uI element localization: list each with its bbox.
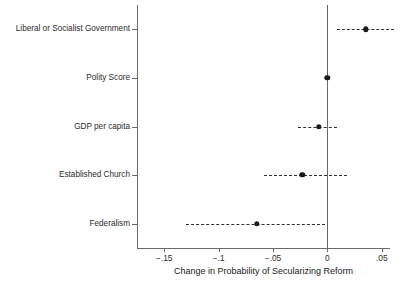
y-axis-label: GDP per capita [74,122,130,131]
x-tick [273,248,274,252]
y-tick [132,175,137,176]
x-tick-label: 0 [325,253,330,263]
y-axis-label: Polity Score [86,73,130,82]
x-axis-line [137,248,390,249]
coefficient-plot: Liberal or Socialist GovernmentPolity Sc… [0,0,410,293]
x-tick-label: −.1 [213,253,225,263]
estimate-point [316,124,321,129]
x-tick-label: −.15 [156,253,173,263]
y-tick [132,224,137,225]
x-tick [382,248,383,252]
estimate-point [325,75,330,80]
y-tick [132,29,137,30]
x-tick [164,248,165,252]
y-axis-label: Liberal or Socialist Government [16,24,130,33]
y-axis-label: Established Church [59,170,130,179]
x-tick [327,248,328,252]
x-tick-label: −.05 [265,253,282,263]
estimate-point [254,221,259,226]
y-tick [132,127,137,128]
y-tick [132,78,137,79]
x-tick-label: .05 [376,253,388,263]
estimate-point [300,172,305,177]
y-axis-label: Federalism [90,219,131,228]
estimate-point [363,27,368,32]
y-axis-line [137,5,138,248]
x-axis-title: Change in Probability of Secularizing Re… [137,266,390,276]
x-tick [219,248,220,252]
confidence-interval-bar [264,175,347,176]
